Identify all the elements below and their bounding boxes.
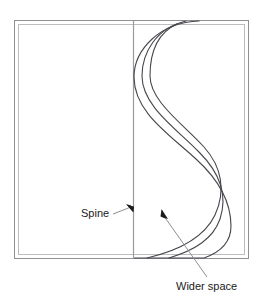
spine-callout-label: Spine xyxy=(81,207,109,219)
book-spine-diagram: Spine Wider space xyxy=(0,0,263,301)
diagram-background xyxy=(0,0,263,301)
figure-canvas: Spine Wider space xyxy=(0,0,263,301)
wider-space-callout-label: Wider space xyxy=(176,280,237,292)
